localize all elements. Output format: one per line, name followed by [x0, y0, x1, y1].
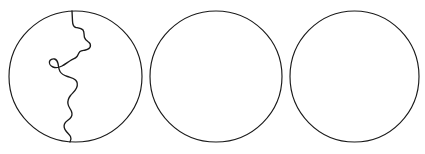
- shape-group-circle-1: [9, 11, 142, 142]
- circle-1-outline: [9, 11, 142, 142]
- irregular-divider-curve: [49, 11, 90, 142]
- three-circles-diagram: [0, 0, 425, 154]
- figure-canvas: [0, 0, 425, 154]
- shape-group-circle-3: [290, 11, 419, 142]
- circle-2-outline: [150, 11, 282, 142]
- circle-3-outline: [290, 11, 419, 142]
- shape-group-circle-2: [150, 11, 282, 142]
